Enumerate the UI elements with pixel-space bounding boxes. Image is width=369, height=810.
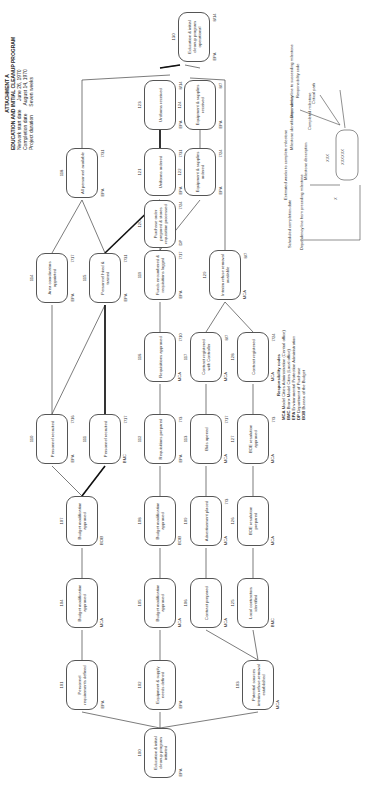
milestone-key-diagram (0, 0, 369, 810)
legend-critical-path: Critical path (312, 83, 317, 104)
legend-placeholder-xxx: XXX (326, 154, 331, 162)
legend-responsibility-code: Responsibility code (296, 64, 301, 98)
pert-network-diagram: ATTACHMENT A EDUCATION AND INITIAL CLEAN… (0, 0, 369, 810)
legend-dependency-from: Dependency line from preceding milestone (300, 174, 305, 250)
legend-scheduled-completion-date: Scheduled completion date (288, 200, 293, 248)
legend-dependency-to: Dependency line to succeeding milestone (290, 44, 295, 118)
legend-milestone-description: Milestone description (304, 142, 309, 180)
legend-placeholder-x: X (334, 197, 339, 200)
legend-estimated-weeks: Estimated weeks to complete milestone (284, 130, 289, 200)
legend-placeholder-desc: XXXXXX (341, 149, 346, 165)
